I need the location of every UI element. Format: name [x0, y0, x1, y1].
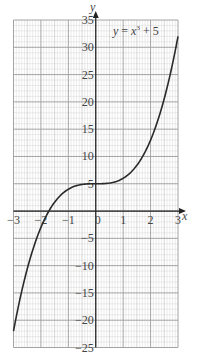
x-tick-label: 2 — [148, 213, 154, 227]
y-tick-label: −20 — [75, 313, 94, 327]
eq-rest: + 5 — [140, 24, 159, 38]
y-tick-label: 15 — [82, 122, 94, 136]
x-tick-label: 3 — [175, 213, 181, 227]
equation-label: y = x3 + 5 — [112, 24, 159, 38]
y-tick-label: 30 — [82, 40, 94, 54]
eq-equals: = — [118, 24, 131, 38]
y-tick-label: 35 — [82, 13, 94, 27]
x-axis-label: x — [181, 209, 188, 223]
y-tick-label: −5 — [81, 231, 94, 245]
x-tick-label: −2 — [35, 213, 48, 227]
y-tick-label: −15 — [75, 286, 94, 300]
axes — [14, 11, 187, 348]
y-tick-label: 25 — [82, 68, 94, 82]
y-tick-label: −10 — [75, 259, 94, 273]
x-tick-label: −1 — [62, 213, 75, 227]
y-tick-label: −25 — [75, 341, 94, 355]
x-tick-label: 1 — [120, 213, 126, 227]
x-tick-label: −3 — [7, 213, 20, 227]
y-tick-label: 10 — [82, 149, 94, 163]
x-tick-label: 0 — [95, 213, 101, 227]
y-axis-label: y — [89, 0, 96, 14]
cubic-graph: −3−2−101233530252015105−5−10−15−20−25 x … — [0, 0, 197, 358]
y-tick-label: 20 — [82, 95, 94, 109]
